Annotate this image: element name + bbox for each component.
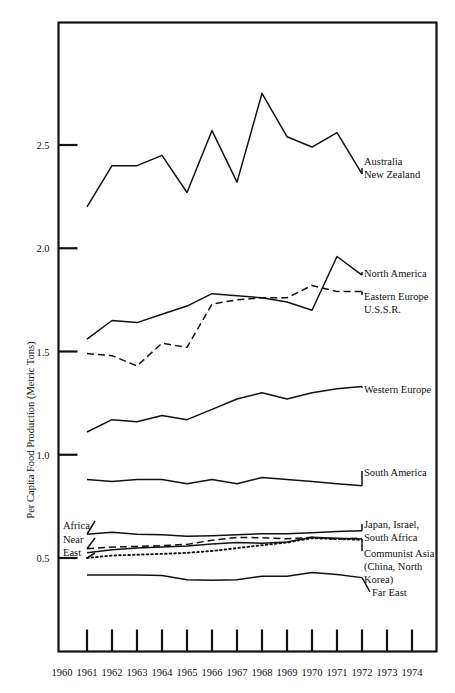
x-tick-label: 1964 [152,667,174,678]
x-tick-label: 1962 [102,667,123,678]
x-tick-label: 1968 [252,667,273,678]
y-tick-label: 1.5 [36,347,49,358]
x-tick-label: 1960 [52,667,73,678]
x-tick-label: 1963 [127,667,148,678]
x-tick-label: 1971 [327,667,348,678]
x-tick-label: 1961 [77,667,98,678]
x-tick-label: 1969 [277,667,298,678]
y-tick-label: 1.0 [36,450,49,461]
chart-figure: 0.51.01.52.02.5 196019611962196319641965… [0,0,455,693]
y-tick-label: 2.0 [36,243,49,254]
y-tick-label: 2.5 [36,140,49,151]
x-tick-label: 1966 [202,667,223,678]
plot-frame [59,23,437,652]
x-tick-label: 1974 [402,667,424,678]
x-tick-label: 1967 [227,667,248,678]
x-tick-label: 1970 [302,667,323,678]
line-chart: 0.51.01.52.02.5 196019611962196319641965… [0,0,455,693]
x-tick-label: 1973 [377,667,398,678]
y-tick-label: 0.5 [36,553,49,564]
y-axis-title: Per Capita Food Production (Metric Tons) [25,341,37,519]
x-tick-label: 1972 [352,667,373,678]
x-tick-label: 1965 [177,667,198,678]
